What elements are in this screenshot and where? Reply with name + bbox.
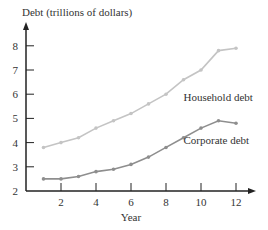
data-point: [94, 170, 98, 174]
y-tick-label: 3: [13, 161, 19, 173]
data-point: [42, 177, 46, 181]
debt-line-chart: Debt (trillions of dollars) 234567824681…: [0, 0, 268, 230]
data-point: [129, 112, 133, 116]
data-point: [147, 155, 151, 159]
data-point: [217, 49, 221, 53]
data-point: [147, 102, 151, 106]
data-point: [112, 167, 116, 171]
series-label: Corporate debt: [184, 134, 250, 146]
x-tick-label: 10: [196, 196, 208, 208]
data-point: [234, 46, 238, 50]
y-tick-label: 4: [13, 137, 19, 149]
data-point: [77, 175, 81, 179]
y-tick-label: 6: [13, 88, 19, 100]
y-axis-arrow-icon: [23, 22, 29, 30]
data-point: [42, 146, 46, 150]
y-tick-label: 8: [13, 40, 19, 52]
x-axis-arrow-icon: [248, 188, 256, 194]
series-group: Household debtCorporate debt: [42, 46, 253, 180]
data-point: [112, 119, 116, 123]
data-point: [59, 141, 63, 145]
data-point: [94, 126, 98, 130]
x-tick-label: 6: [128, 196, 134, 208]
data-point: [164, 92, 168, 96]
data-point: [164, 146, 168, 150]
y-tick-label: 7: [13, 64, 19, 76]
data-point: [182, 78, 186, 82]
data-point: [129, 163, 133, 167]
x-axis-label: Year: [121, 211, 142, 223]
y-axis-label: Debt (trillions of dollars): [22, 6, 133, 19]
series-line: [44, 121, 237, 179]
y-tick-label: 5: [13, 112, 19, 124]
y-tick-label: 2: [13, 185, 19, 197]
data-point: [59, 177, 63, 181]
series-label: Household debt: [184, 91, 253, 103]
x-tick-label: 12: [231, 196, 242, 208]
data-point: [217, 119, 221, 123]
x-tick-label: 8: [163, 196, 169, 208]
data-point: [234, 121, 238, 125]
data-point: [199, 126, 203, 130]
data-point: [77, 136, 81, 140]
data-point: [199, 68, 203, 72]
x-tick-label: 2: [58, 196, 64, 208]
x-tick-label: 4: [93, 196, 99, 208]
